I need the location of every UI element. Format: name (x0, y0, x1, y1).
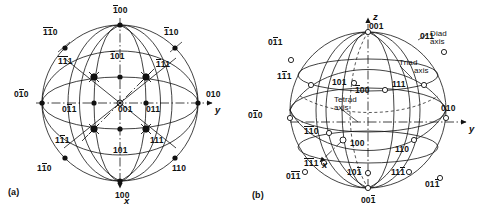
miller-index-label: 101 (113, 146, 127, 155)
miller-index-label: 001 (118, 105, 132, 114)
axis-label-z-b: z (373, 12, 378, 22)
pole-marker (443, 115, 448, 120)
miller-digit: 0 (360, 138, 365, 148)
miller-digit: 0 (123, 5, 128, 15)
miller-digit: 0 (216, 89, 221, 99)
miller-digit: 1 (128, 104, 133, 114)
miller-index-label: 110 (395, 145, 409, 154)
miller-index-label: 100 (355, 86, 369, 95)
miller-digit: 1 (156, 60, 161, 69)
pole-marker (287, 115, 292, 120)
miller-digit: 1 (435, 180, 440, 189)
miller-digit: 0 (174, 27, 179, 37)
miller-digit: 1 (60, 136, 65, 145)
pole-marker (382, 87, 387, 92)
miller-index-label: 001 (369, 22, 383, 31)
pole-marker (172, 155, 177, 160)
miller-digit: 1 (165, 59, 170, 69)
miller-digit: 1 (309, 127, 314, 136)
pole-marker (411, 137, 416, 142)
panel-b-hidden-arcs (300, 32, 438, 188)
miller-digit: 1 (72, 104, 77, 114)
tetrad-axis-label: Tetrad axis (334, 96, 357, 113)
miller-digit: 1 (282, 72, 287, 81)
miller-index-label: 111 (150, 136, 164, 145)
miller-digit: 0 (258, 110, 263, 120)
miller-index-label: 100 (113, 6, 127, 15)
pole-marker (340, 137, 346, 143)
axis-label-x-a: x (124, 196, 129, 206)
miller-digit: 1 (401, 79, 406, 89)
miller-index-label: 111 (58, 57, 72, 66)
pole-marker (39, 100, 44, 105)
miller-digit: 1 (309, 159, 314, 168)
miller-digit: 1 (355, 86, 360, 95)
miller-index-label: 101 (332, 78, 346, 87)
miller-index-label: 010 (248, 111, 262, 120)
axis-label-x-b: x (322, 160, 327, 170)
miller-digit: 1 (400, 168, 405, 177)
miller-digit: 0 (314, 126, 319, 136)
miller-digit: 0 (404, 144, 409, 154)
panel-tag-a: (a) (8, 188, 19, 197)
miller-digit: 1 (342, 77, 347, 87)
miller-digit: 1 (65, 135, 70, 145)
pole-marker (406, 169, 411, 174)
miller-index-label: 101 (347, 168, 361, 177)
miller-index-label: 111 (277, 72, 291, 81)
miller-digit: 1 (164, 28, 169, 37)
miller-digit: 1 (159, 135, 164, 145)
miller-digit: 0 (47, 163, 52, 173)
pole-marker (302, 169, 307, 174)
miller-digit: 1 (68, 56, 73, 66)
miller-index-label: 111 (391, 168, 405, 177)
pole-marker (117, 178, 122, 183)
miller-digit: 0 (53, 27, 58, 37)
great-circle-b2 (368, 32, 410, 188)
pole-marker (91, 100, 96, 105)
diad-axis-label: Diad axis (430, 30, 447, 47)
miller-digit: 1 (110, 52, 115, 61)
pole-marker (62, 155, 67, 160)
miller-digit: 1 (123, 145, 128, 155)
miller-index-label: 111 (304, 159, 318, 168)
pole-marker (326, 130, 331, 135)
miller-index-label: 011 (425, 180, 439, 189)
miller-index-label: 110 (164, 28, 178, 37)
miller-digit: 1 (379, 21, 384, 31)
miller-index-label: 111 (392, 80, 406, 89)
miller-index-label: 010 (441, 104, 455, 113)
miller-index-label: 011 (62, 105, 76, 114)
pole-marker (308, 82, 313, 87)
pole-marker (117, 22, 122, 27)
miller-index-label: 010 (206, 90, 220, 99)
miller-digit: 1 (113, 6, 118, 15)
miller-digit: 1 (287, 71, 292, 81)
pole-marker (365, 185, 370, 190)
miller-digit: 0 (24, 89, 29, 99)
miller-digit: 1 (273, 38, 278, 47)
miller-digit: 1 (371, 196, 376, 205)
axis-label-y-b: y (469, 124, 474, 134)
miller-index-label: 011 (268, 38, 282, 47)
miller-digit: 1 (314, 158, 319, 168)
miller-index-label: 110 (172, 164, 186, 173)
miller-index-label: 001 (361, 196, 375, 205)
miller-index-label: 101 (110, 52, 124, 61)
miller-digit: 1 (357, 168, 362, 177)
miller-index-label: 011 (286, 172, 300, 181)
miller-index-label: 111 (55, 136, 69, 145)
hidden-equator-rear (300, 96, 438, 113)
miller-digit: 1 (253, 111, 258, 120)
miller-digit: 1 (42, 164, 47, 173)
triad-axis-label: Triad axis (399, 59, 429, 76)
miller-digit: 1 (120, 51, 125, 61)
miller-digit: 1 (296, 172, 301, 181)
miller-digit: 0 (365, 85, 370, 95)
pole-marker (117, 126, 122, 131)
figure-container: 1001101101111011110100110010110101111011… (0, 0, 489, 217)
miller-index-label: 110 (304, 127, 318, 136)
miller-digit: 1 (155, 104, 160, 114)
pole-marker (441, 49, 446, 54)
pole-marker (288, 57, 293, 62)
